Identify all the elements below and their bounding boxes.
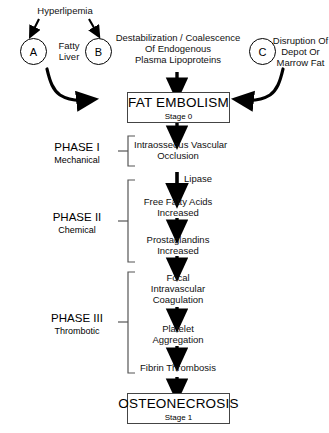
phase-1-title: PHASE I Mechanical bbox=[38, 141, 116, 166]
arrow-hyperlipemia-to-b bbox=[89, 19, 97, 33]
phase-2-name: PHASE II bbox=[38, 211, 116, 225]
phase-3-name: PHASE III bbox=[38, 312, 116, 326]
osteonecrosis-title: OSTEONECROSIS bbox=[118, 396, 238, 411]
phase-2-subtitle: Chemical bbox=[38, 225, 116, 236]
phase-3-title: PHASE III Thrombotic bbox=[38, 312, 116, 337]
osteonecrosis-stage: Stage 1 bbox=[165, 413, 193, 422]
lipase-label: Lipase bbox=[184, 174, 226, 185]
step-fibrin-thrombosis: Fibrin Thrombosis bbox=[134, 363, 222, 374]
arrow-a-to-fat-embolism bbox=[47, 69, 87, 100]
node-circle-b: B bbox=[85, 38, 112, 65]
fat-embolism-stage: Stage 0 bbox=[165, 112, 193, 121]
step-focal-intravascular-coagulation: Focal Intravascular Coagulation bbox=[134, 273, 222, 306]
arrow-hyperlipemia-to-a bbox=[32, 19, 39, 33]
phase-2-title: PHASE II Chemical bbox=[38, 211, 116, 236]
step-free-fatty-acids-increased: Free Fatty Acids Increased bbox=[134, 197, 222, 219]
node-circle-a: A bbox=[20, 38, 47, 65]
step-intraosseous-vascular-occlusion: Intraosseous Vascular Occlusion bbox=[134, 140, 222, 162]
fat-embolism-title: FAT EMBOLISM bbox=[128, 95, 229, 110]
fat-embolism-flowchart: Hyperlipemia A Fatty Liver B Destabiliza… bbox=[0, 0, 329, 433]
osteonecrosis-box: OSTEONECROSIS Stage 1 bbox=[127, 393, 230, 424]
arrow-c-to-fat-embolism bbox=[243, 69, 283, 100]
hyperlipemia-label: Hyperlipemia bbox=[30, 6, 100, 17]
phase-1-subtitle: Mechanical bbox=[38, 155, 116, 166]
step-prostaglandins-increased: Prostaglandins Increased bbox=[134, 235, 222, 257]
fat-embolism-box: FAT EMBOLISM Stage 0 bbox=[127, 92, 230, 123]
step-platelet-aggregation: Platelet Aggregation bbox=[134, 324, 222, 346]
phase-1-name: PHASE I bbox=[38, 141, 116, 155]
phase-3-subtitle: Thrombotic bbox=[38, 326, 116, 337]
node-c-label: Disruption Of Depot Or Marrow Fat bbox=[272, 36, 329, 69]
node-b-label: Destabilization / Coalescence Of Endogen… bbox=[110, 33, 246, 66]
